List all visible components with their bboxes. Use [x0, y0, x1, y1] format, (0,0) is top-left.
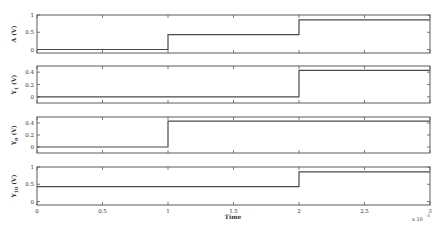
- signal-trace: [37, 172, 430, 187]
- panel-1: 00.51A (V): [10, 12, 430, 53]
- y-tick-label: 0: [31, 199, 35, 205]
- y-tick-label: 0.2: [25, 82, 34, 88]
- signal-trace: [37, 121, 430, 147]
- y-tick-label: 1: [31, 164, 35, 170]
- stacked-step-plots: 00.51A (V)00.20.4Y1 (V)00.20.4Y0 (V)00.5…: [0, 0, 448, 235]
- y-tick-label: 0: [31, 94, 35, 100]
- x-tick-label: 0: [35, 208, 39, 214]
- panel-2: 00.20.4Y1 (V): [10, 66, 430, 103]
- svg-text:x 10: x 10: [412, 216, 423, 222]
- signal-trace: [37, 20, 430, 50]
- x-tick-label: 0.5: [98, 208, 107, 214]
- y-tick-label: 0: [31, 47, 35, 53]
- y-tick-label: 0: [31, 144, 35, 150]
- x-tick-label: 2: [297, 208, 301, 214]
- y-tick-label: 0.5: [25, 181, 34, 187]
- y-axis-label: Y0 (V): [10, 125, 19, 146]
- y-tick-label: 0.4: [25, 69, 34, 75]
- x-axis-label: Time: [225, 213, 242, 220]
- svg-text:-3: -3: [426, 213, 430, 218]
- y-tick-label: 1: [31, 12, 35, 18]
- y-tick-label: 0.5: [25, 29, 34, 35]
- panel-3: 00.20.4Y0 (V): [10, 117, 430, 153]
- x-tick-label: 2.5: [360, 208, 369, 214]
- x-tick-label: 1: [166, 208, 170, 214]
- y-axis-label: A (V): [10, 25, 17, 43]
- y-axis-label: Y1 (V): [10, 74, 19, 95]
- signal-trace: [37, 70, 430, 97]
- axes-frame: [37, 15, 430, 53]
- x-exponent-label: x 10 -3: [412, 213, 430, 222]
- y-tick-label: 0.2: [25, 132, 34, 138]
- axes-frame: [37, 167, 430, 205]
- panel-4: 00.51Y10 (V): [10, 164, 430, 205]
- axes-frame: [37, 66, 430, 103]
- y-axis-label: Y10 (V): [10, 174, 19, 198]
- y-tick-label: 0.4: [25, 120, 34, 126]
